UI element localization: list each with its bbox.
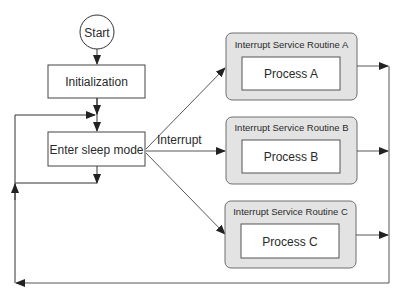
init-label: Initialization <box>65 75 128 89</box>
init-node: Initialization <box>48 65 145 98</box>
interrupt-label: Interrupt <box>157 133 202 147</box>
flowchart-canvas: Start Initialization Enter sleep mode In… <box>0 0 398 297</box>
arrow-to-isr-c <box>146 153 225 234</box>
process-a-label: Process A <box>264 67 318 81</box>
isr-a-title: Interrupt Service Routine A <box>235 39 349 50</box>
start-node: Start <box>80 15 114 49</box>
sleep-label: Enter sleep mode <box>49 143 143 157</box>
sleep-node: Enter sleep mode <box>48 132 145 166</box>
isr-b-title: Interrupt Service Routine B <box>234 122 348 133</box>
process-c-label: Process C <box>262 235 318 249</box>
start-label: Start <box>84 26 110 40</box>
flowchart-svg: Start Initialization Enter sleep mode In… <box>0 0 398 297</box>
process-b-label: Process B <box>264 150 319 164</box>
isr-a: Interrupt Service Routine A Process A <box>226 33 357 100</box>
isr-c-title: Interrupt Service Routine C <box>233 206 348 217</box>
isr-b: Interrupt Service Routine B Process B <box>226 117 357 184</box>
isr-c: Interrupt Service Routine C Process C <box>225 201 356 268</box>
